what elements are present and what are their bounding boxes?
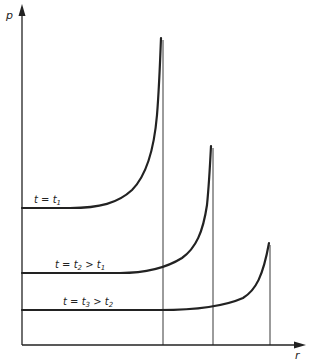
pressure-radius-diagram: p r t = t1 t = t2 > t1 t = t3 > t2	[0, 0, 311, 363]
label-t1: t = t1	[34, 194, 61, 207]
label-t2: t = t2 > t1	[55, 259, 105, 272]
y-axis-arrow-icon	[19, 4, 26, 16]
y-axis-label: p	[5, 9, 13, 22]
x-axis-label: r	[295, 349, 301, 362]
y-axis: p	[5, 4, 26, 345]
curve-t1	[22, 38, 161, 208]
label-t3: t = t3 > t2	[63, 296, 114, 309]
x-axis: r	[22, 342, 306, 363]
drop-lines	[163, 40, 270, 345]
curve-t3	[22, 243, 269, 310]
curve-t2	[22, 146, 211, 273]
x-axis-arrow-icon	[294, 342, 306, 349]
